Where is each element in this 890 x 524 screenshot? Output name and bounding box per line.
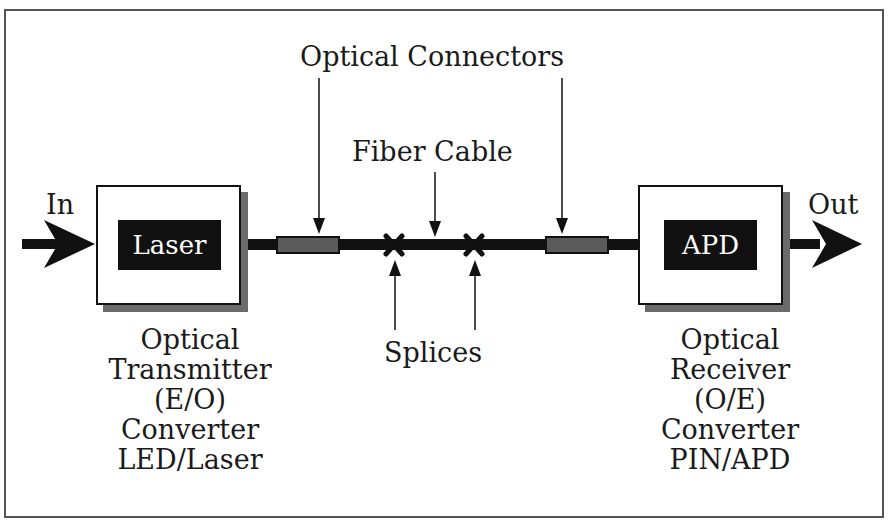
connector-pointer-right bbox=[556, 78, 568, 234]
transmitter-box: Laser bbox=[96, 185, 241, 305]
caption-line: Optical bbox=[620, 325, 840, 355]
laser-chip: Laser bbox=[118, 220, 221, 270]
optical-connector-right bbox=[546, 237, 608, 253]
caption-line: (O/E) bbox=[620, 385, 840, 415]
caption-line: Converter bbox=[620, 415, 840, 445]
apd-chip: APD bbox=[664, 220, 757, 270]
caption-line: (E/O) bbox=[80, 385, 300, 415]
caption-line: Transmitter bbox=[80, 355, 300, 385]
fiber-cable-label: Fiber Cable bbox=[352, 137, 513, 167]
optical-connector-left bbox=[277, 237, 339, 253]
transmitter-caption: Optical Transmitter (E/O) Converter LED/… bbox=[80, 325, 300, 475]
optical-connectors-label: Optical Connectors bbox=[300, 42, 564, 72]
input-arrow bbox=[22, 220, 95, 268]
receiver-box: APD bbox=[638, 185, 783, 305]
output-label: Out bbox=[808, 190, 858, 220]
connector-pointer-left bbox=[313, 78, 325, 234]
input-label: In bbox=[46, 190, 74, 220]
caption-line: LED/Laser bbox=[80, 445, 300, 475]
caption-line: Receiver bbox=[620, 355, 840, 385]
splice-pointer-right bbox=[469, 260, 481, 330]
splice-pointer-left bbox=[389, 260, 401, 330]
receiver-caption: Optical Receiver (O/E) Converter PIN/APD bbox=[620, 325, 840, 475]
splices-label: Splices bbox=[384, 338, 482, 368]
caption-line: Optical bbox=[80, 325, 300, 355]
caption-line: Converter bbox=[80, 415, 300, 445]
fiber-pointer bbox=[429, 172, 441, 237]
caption-line: PIN/APD bbox=[620, 445, 840, 475]
output-arrow bbox=[780, 220, 862, 268]
